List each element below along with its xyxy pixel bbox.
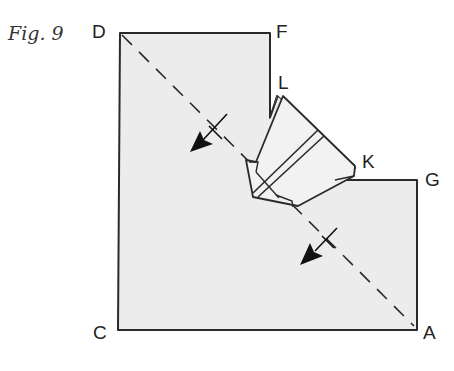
label-l: L xyxy=(278,73,289,92)
label-d: D xyxy=(92,22,106,41)
label-k: K xyxy=(362,152,375,171)
label-a: A xyxy=(423,323,436,342)
origami-figure: Fig. 9 xyxy=(0,0,454,371)
label-g: G xyxy=(425,170,440,189)
label-f: F xyxy=(276,22,288,41)
diagram-canvas xyxy=(0,0,454,371)
label-c: C xyxy=(93,323,107,342)
